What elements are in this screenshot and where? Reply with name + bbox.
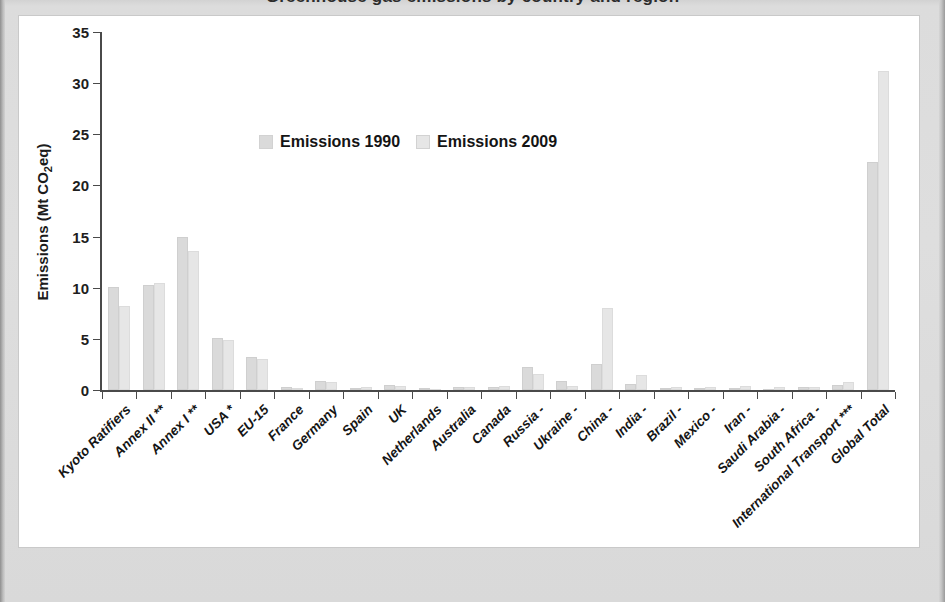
x-tick-14 xyxy=(585,392,586,399)
bar[interactable] xyxy=(671,387,682,390)
bar[interactable] xyxy=(488,387,499,390)
x-tick-6 xyxy=(309,392,310,399)
x-axis-line xyxy=(100,390,895,392)
bar[interactable] xyxy=(453,387,464,390)
bar[interactable] xyxy=(143,285,154,390)
chart-title-strip: Greenhouse gas emissions by country and … xyxy=(6,0,939,14)
bar[interactable] xyxy=(119,306,130,390)
x-tick-4 xyxy=(240,392,241,399)
bar[interactable] xyxy=(625,384,636,390)
bar[interactable] xyxy=(798,387,809,390)
y-axis-line xyxy=(100,32,102,391)
legend-item-1[interactable]: Emissions 1990 xyxy=(259,133,400,151)
y-tick-label-20: 20 xyxy=(49,177,89,194)
x-tick-22 xyxy=(861,392,862,399)
bar[interactable] xyxy=(281,387,292,390)
y-tick-label-15: 15 xyxy=(49,228,89,245)
bar[interactable] xyxy=(350,388,361,390)
bar[interactable] xyxy=(395,386,406,390)
x-tick-3 xyxy=(205,392,206,399)
bar[interactable] xyxy=(177,237,188,390)
y-tick-label-25: 25 xyxy=(49,126,89,143)
chart-panel: Emissions (Mt CO2eq) 05101520253035 Emis… xyxy=(19,16,919,547)
y-tick-label-0: 0 xyxy=(49,382,89,399)
bar[interactable] xyxy=(315,381,326,390)
chart-legend: Emissions 1990Emissions 2009 xyxy=(259,133,557,151)
bar[interactable] xyxy=(843,382,854,390)
bar[interactable] xyxy=(419,388,430,390)
y-tick-25 xyxy=(93,134,100,135)
bar[interactable] xyxy=(522,367,533,390)
legend-item-2[interactable]: Emissions 2009 xyxy=(416,133,557,151)
bar[interactable] xyxy=(567,386,578,390)
bar[interactable] xyxy=(705,387,716,390)
bar[interactable] xyxy=(246,357,257,390)
scanned-page: Greenhouse gas emissions by country and … xyxy=(0,0,945,602)
legend-label: Emissions 1990 xyxy=(280,133,400,151)
bar[interactable] xyxy=(430,389,441,390)
chart-title: Greenhouse gas emissions by country and … xyxy=(6,0,939,7)
x-tick-0 xyxy=(102,392,103,399)
bar[interactable] xyxy=(602,308,613,390)
bar[interactable] xyxy=(292,388,303,390)
legend-swatch-icon xyxy=(416,135,430,149)
bar[interactable] xyxy=(257,359,268,390)
bar[interactable] xyxy=(636,375,647,390)
bar[interactable] xyxy=(729,388,740,390)
y-tick-30 xyxy=(93,83,100,84)
bar[interactable] xyxy=(660,388,671,390)
y-tick-20 xyxy=(93,185,100,186)
y-tick-label-30: 30 xyxy=(49,75,89,92)
bar[interactable] xyxy=(740,386,751,390)
bar[interactable] xyxy=(809,387,820,390)
y-tick-35 xyxy=(93,32,100,33)
bar[interactable] xyxy=(326,382,337,390)
bar[interactable] xyxy=(832,385,843,390)
x-tick-15 xyxy=(619,392,620,399)
x-tick-23 xyxy=(895,392,896,399)
y-tick-label-35: 35 xyxy=(49,24,89,41)
bar[interactable] xyxy=(188,251,199,390)
x-tick-2 xyxy=(171,392,172,399)
y-axis-title-tail: eq) xyxy=(34,144,51,167)
x-tick-7 xyxy=(343,392,344,399)
bar[interactable] xyxy=(878,71,889,390)
x-tick-5 xyxy=(274,392,275,399)
bar[interactable] xyxy=(556,381,567,390)
x-tick-19 xyxy=(757,392,758,399)
x-axis-label: Spain xyxy=(339,402,376,439)
bar[interactable] xyxy=(499,386,510,390)
bar[interactable] xyxy=(694,388,705,390)
bar[interactable] xyxy=(591,364,602,390)
x-tick-12 xyxy=(516,392,517,399)
y-tick-15 xyxy=(93,237,100,238)
x-axis-label: USA * xyxy=(200,402,237,439)
bar[interactable] xyxy=(464,387,475,390)
y-tick-0 xyxy=(93,390,100,391)
x-axis-label: UK xyxy=(385,402,409,426)
x-tick-10 xyxy=(447,392,448,399)
bar[interactable] xyxy=(154,283,165,390)
bar[interactable] xyxy=(774,387,785,390)
bar[interactable] xyxy=(533,374,544,390)
y-tick-5 xyxy=(93,339,100,340)
y-tick-label-10: 10 xyxy=(49,279,89,296)
x-tick-9 xyxy=(412,392,413,399)
x-tick-21 xyxy=(826,392,827,399)
x-tick-1 xyxy=(136,392,137,399)
x-tick-8 xyxy=(378,392,379,399)
bar[interactable] xyxy=(384,385,395,390)
y-tick-10 xyxy=(93,288,100,289)
bar[interactable] xyxy=(867,162,878,390)
legend-swatch-icon xyxy=(259,135,273,149)
bar[interactable] xyxy=(361,387,372,390)
x-tick-17 xyxy=(688,392,689,399)
x-tick-20 xyxy=(792,392,793,399)
bar[interactable] xyxy=(212,338,223,390)
x-tick-13 xyxy=(550,392,551,399)
bar[interactable] xyxy=(223,340,234,390)
x-axis-label: China - xyxy=(574,402,617,445)
y-tick-label-5: 5 xyxy=(49,330,89,347)
bar[interactable] xyxy=(763,389,774,390)
bar[interactable] xyxy=(108,287,119,390)
